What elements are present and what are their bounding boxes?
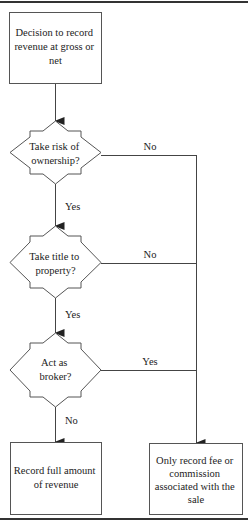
- d2-yes-label: Yes: [65, 309, 80, 320]
- d2-line-2: property?: [35, 265, 76, 276]
- gross-line-2: of revenue: [34, 479, 79, 490]
- outcome-record-full-revenue: Record full amount of revenue: [11, 443, 102, 515]
- d1-line-1: Take risk of: [29, 141, 80, 152]
- net-line-2: commission: [169, 468, 221, 479]
- decision-risk-of-ownership: Take risk of ownership?: [10, 121, 101, 184]
- flowchart: Decision to record revenue at gross or n…: [0, 0, 248, 523]
- start-line-2: revenue at gross or: [14, 41, 94, 52]
- net-line-4: sale: [188, 494, 205, 505]
- d3-line-2: broker?: [39, 371, 71, 382]
- d3-no-label: No: [65, 415, 78, 426]
- start-box: Decision to record revenue at gross or n…: [10, 13, 102, 84]
- d1-line-2: ownership?: [31, 155, 80, 166]
- decision-act-as-broker: Act as broker?: [10, 333, 101, 407]
- net-line-3: associated with the: [155, 481, 235, 492]
- net-line-1: Only record fee or: [156, 455, 234, 466]
- decision-take-title: Take title to property?: [10, 226, 101, 298]
- outcome-record-fee-only: Only record fee or commission associated…: [150, 444, 243, 515]
- d2-line-1: Take title to: [29, 251, 79, 262]
- start-line-3: net: [49, 55, 62, 66]
- gross-line-1: Record full amount: [14, 465, 96, 476]
- start-line-1: Decision to record: [15, 27, 93, 38]
- d3-yes-label: Yes: [142, 356, 157, 367]
- d2-no-label: No: [144, 249, 157, 260]
- d1-yes-label: Yes: [65, 201, 80, 212]
- d3-line-1: Act as: [41, 357, 68, 368]
- d1-no-label: No: [144, 141, 157, 152]
